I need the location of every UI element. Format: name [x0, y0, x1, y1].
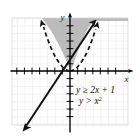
inequality-quadratic-base: y > x: [78, 96, 99, 106]
coordinate-plane-svg: x y y ≥ 2x + 1 y > x2: [0, 0, 139, 139]
y-axis-label: y: [60, 12, 65, 22]
graph-figure: x y y ≥ 2x + 1 y > x2: [0, 0, 139, 139]
inequality-label-linear: y ≥ 2x + 1: [75, 85, 115, 95]
x-axis-label: x: [124, 74, 129, 84]
